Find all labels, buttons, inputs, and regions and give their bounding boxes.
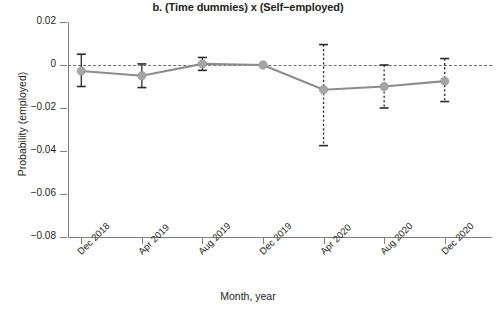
data-point xyxy=(441,77,449,85)
data-point-group xyxy=(77,60,449,94)
data-point xyxy=(138,72,146,80)
data-point xyxy=(380,82,388,90)
error-bar-group xyxy=(77,45,449,146)
chart-figure: b. (Time dummies) x (Self−employed) Prob… xyxy=(0,0,496,310)
data-point xyxy=(198,60,206,68)
data-point xyxy=(319,86,327,94)
data-point xyxy=(259,61,267,69)
data-series-layer xyxy=(0,0,496,310)
data-point xyxy=(77,67,85,75)
